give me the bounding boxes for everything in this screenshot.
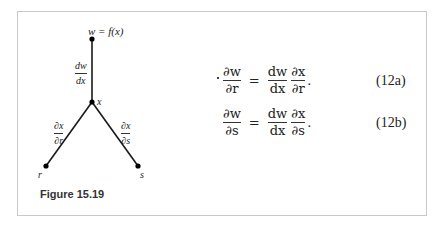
edge-right-num: ∂x bbox=[121, 121, 130, 131]
equation-number-12a: (12a) bbox=[376, 73, 406, 89]
eq-lhs-den: ∂r bbox=[225, 82, 238, 96]
eq-rhs1-den: dx bbox=[270, 124, 286, 138]
edge-top-label: dw dx bbox=[75, 61, 87, 86]
eq-operator: = bbox=[249, 73, 260, 88]
eq-rhs2: ∂x ∂r bbox=[291, 65, 305, 95]
eq-rhs1-num: dw bbox=[268, 65, 287, 79]
node-label-top: w = f(x) bbox=[88, 26, 124, 37]
node-label-middle: x bbox=[97, 97, 101, 107]
edge-left-label: ∂x ∂r bbox=[54, 121, 63, 146]
eq-lhs-den: ∂s bbox=[225, 124, 238, 138]
edge-top-num: dw bbox=[75, 61, 87, 71]
eq-rhs1: dw dx bbox=[268, 65, 287, 95]
eq-lhs: ∂w ∂r bbox=[223, 65, 241, 95]
figure-caption: Figure 15.19 bbox=[40, 188, 104, 200]
node-x-icon bbox=[89, 99, 94, 104]
eq-rhs1-num: dw bbox=[268, 107, 287, 121]
eq-rhs2-den: ∂r bbox=[292, 82, 305, 96]
eq-rhs2-num: ∂x bbox=[291, 107, 305, 121]
eq-rhs2-den: ∂s bbox=[292, 124, 305, 138]
eq-lhs: ∂w ∂s bbox=[223, 107, 241, 137]
node-label-right: s bbox=[140, 170, 144, 180]
node-label-left: r bbox=[38, 170, 42, 180]
edge-left-den: ∂r bbox=[54, 136, 63, 146]
eq-lhs-num: ∂w bbox=[223, 65, 241, 79]
eq-rhs1: dw dx bbox=[268, 107, 287, 137]
eq-operator: = bbox=[249, 115, 260, 130]
node-r-icon bbox=[43, 163, 48, 168]
edge-right-label: ∂x ∂s bbox=[121, 121, 130, 146]
eq-period: . bbox=[307, 115, 311, 130]
fraction-bar bbox=[75, 73, 87, 74]
eq-lhs-num: ∂w bbox=[223, 107, 241, 121]
node-s-icon bbox=[135, 163, 140, 168]
edge-right-den: ∂s bbox=[121, 136, 130, 146]
eq-rhs2: ∂x ∂s bbox=[291, 107, 305, 137]
node-w-icon bbox=[89, 36, 94, 41]
edge-left bbox=[46, 102, 92, 166]
stray-dot-icon bbox=[217, 77, 219, 79]
fraction-bar bbox=[121, 133, 130, 134]
equation-12b: ∂w ∂s = dw dx ∂x ∂s . bbox=[221, 107, 311, 137]
edge-left-num: ∂x bbox=[54, 121, 63, 131]
edge-right bbox=[92, 102, 138, 166]
eq-period: . bbox=[307, 73, 311, 88]
eq-rhs2-num: ∂x bbox=[291, 65, 305, 79]
eq-rhs1-den: dx bbox=[270, 82, 286, 96]
edge-top-den: dx bbox=[76, 76, 85, 86]
fraction-bar bbox=[54, 133, 63, 134]
equation-12a: ∂w ∂r = dw dx ∂x ∂r . bbox=[221, 65, 311, 95]
equation-number-12b: (12b) bbox=[376, 115, 406, 131]
